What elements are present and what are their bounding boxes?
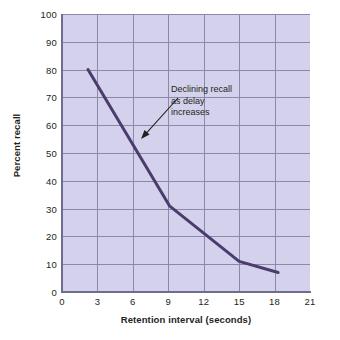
x-tick-label: 0 [47, 296, 77, 307]
x-tick-label: 18 [260, 296, 290, 307]
annotation-line: as delay [171, 96, 232, 108]
x-tick-label: 15 [224, 296, 254, 307]
x-tick-label: 21 [295, 296, 325, 307]
x-axis-ticks: 036912151821 [0, 0, 340, 340]
annotation-text: Declining recallas delayincreases [171, 84, 232, 119]
x-tick-label: 9 [153, 296, 183, 307]
x-axis-title: Retention interval (seconds) [62, 314, 310, 325]
x-tick-label: 12 [189, 296, 219, 307]
annotation-line: increases [171, 107, 232, 119]
annotation-line: Declining recall [171, 84, 232, 96]
forgetting-curve-chart: 0102030405060708090100 036912151821 Perc… [0, 0, 340, 340]
x-tick-label: 3 [82, 296, 112, 307]
y-axis-title: Percent recall [11, 86, 22, 206]
x-tick-label: 6 [118, 296, 148, 307]
